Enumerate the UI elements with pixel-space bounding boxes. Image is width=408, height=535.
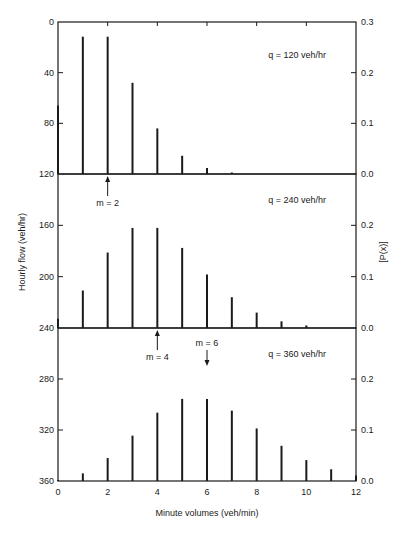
- chart-canvas: 040801200.30.20.10.0q = 120 veh/hrm = 21…: [0, 0, 408, 535]
- left-tick-label: 280: [39, 374, 54, 384]
- right-tick-label: 0.0: [361, 169, 374, 179]
- right-tick-label: 0.1: [361, 272, 374, 282]
- panel-2: 1602002400.20.10.0q = 240 veh/hrm = 4: [39, 174, 374, 362]
- left-y-axis-title: Hourly flow (veh/hr): [17, 213, 27, 291]
- x-axis-title: Minute volumes (veh/min): [155, 508, 258, 518]
- left-tick-label: 320: [39, 425, 54, 435]
- x-axis-tick-labels: 024681012: [55, 487, 361, 497]
- flow-rate-label: q = 120 veh/hr: [268, 50, 326, 60]
- x-tick-label: 6: [204, 487, 209, 497]
- left-tick-label: 0: [49, 17, 54, 27]
- right-tick-label: 0.2: [361, 68, 374, 78]
- flow-rate-label: q = 240 veh/hr: [268, 195, 326, 205]
- x-tick-label: 0: [55, 487, 60, 497]
- mean-label: m = 6: [196, 338, 219, 348]
- arrow-head-icon: [155, 330, 160, 336]
- x-tick-label: 4: [155, 487, 160, 497]
- panel-frame: [58, 22, 356, 174]
- x-tick-label: 2: [105, 487, 110, 497]
- right-tick-label: 0.1: [361, 118, 374, 128]
- x-tick-label: 10: [301, 487, 311, 497]
- right-tick-label: 0.0: [361, 476, 374, 486]
- panel-1: 040801200.30.20.10.0q = 120 veh/hrm = 2: [39, 17, 374, 208]
- left-tick-label: 200: [39, 272, 54, 282]
- right-tick-label: 0.3: [361, 17, 374, 27]
- left-tick-label: 80: [44, 118, 54, 128]
- right-y-axis-title: [P(x)]: [378, 241, 388, 263]
- left-tick-label: 160: [39, 220, 54, 230]
- arrow-head-icon: [105, 176, 110, 182]
- right-tick-label: 0.2: [361, 220, 374, 230]
- flow-rate-label: q = 360 veh/hr: [268, 349, 326, 359]
- mean-label: m = 2: [96, 198, 119, 208]
- left-tick-label: 240: [39, 323, 54, 333]
- poisson-minute-volume-chart: 040801200.30.20.10.0q = 120 veh/hrm = 21…: [0, 0, 408, 535]
- x-tick-label: 12: [351, 487, 361, 497]
- x-tick-label: 8: [254, 487, 259, 497]
- left-tick-label: 120: [39, 169, 54, 179]
- chart-panels: 040801200.30.20.10.0q = 120 veh/hrm = 21…: [39, 17, 374, 486]
- panel-3: 2803203600.20.10.0q = 360 veh/hrm = 6: [39, 328, 374, 486]
- left-tick-label: 40: [44, 68, 54, 78]
- mean-label: m = 4: [146, 352, 169, 362]
- right-tick-label: 0.0: [361, 323, 374, 333]
- arrow-head-icon: [205, 360, 210, 366]
- right-tick-label: 0.2: [361, 374, 374, 384]
- left-tick-label: 360: [39, 476, 54, 486]
- right-tick-label: 0.1: [361, 425, 374, 435]
